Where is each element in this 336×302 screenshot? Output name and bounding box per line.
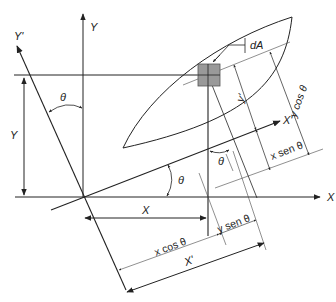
y-prime-axis-label: Y'	[14, 30, 24, 42]
theta-element-label: θ	[218, 155, 224, 167]
x-sen-label: x sen θ	[268, 138, 304, 161]
theta-arc-top	[49, 105, 82, 112]
theta-top-label: θ	[60, 91, 66, 103]
theta-origin-label: θ	[178, 174, 184, 186]
axes-rotation-diagram: Y X y' y cos θ x sen θ y sen θ x cos θ X…	[0, 0, 336, 302]
y-prime-axis	[17, 46, 126, 290]
x-prime-axis-label: X'	[282, 114, 293, 126]
x-prime-dimension	[127, 243, 264, 292]
dA-label: dA	[250, 39, 263, 51]
dA-leader	[214, 45, 245, 61]
x-axis-label: X	[326, 191, 335, 203]
y-sen-label: y sen θ	[215, 211, 251, 234]
x-prime-dim-label: X'	[181, 253, 196, 268]
perp-line-1	[226, 154, 233, 171]
y-axis-label: Y	[90, 21, 98, 33]
y-prime-label: y'	[233, 92, 248, 105]
perp-line-2	[199, 173, 226, 245]
y-dim-label: Y	[10, 129, 18, 141]
diagram-canvas: Y X y' y cos θ x sen θ y sen θ x cos θ X…	[0, 0, 336, 302]
perp-line-3	[233, 151, 266, 250]
x-dim-label: X	[141, 204, 150, 216]
x-cos-label: x cos θ	[152, 235, 188, 258]
theta-arc-element	[210, 150, 229, 153]
y-prime-parallel-dA	[208, 75, 257, 198]
theta-arc-origin	[167, 165, 172, 196]
